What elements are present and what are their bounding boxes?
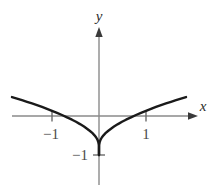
function-plot: y x −1 1 −1 — [0, 0, 208, 185]
tick-label-x-negative-one: −1 — [43, 126, 59, 142]
y-axis-label: y — [94, 8, 103, 24]
x-axis-label: x — [199, 98, 207, 114]
y-axis-arrow-icon — [95, 27, 102, 37]
graph-figure: y x −1 1 −1 — [0, 0, 208, 185]
tick-label-y-negative-one: −1 — [72, 147, 88, 163]
x-axis-arrow-icon — [188, 112, 198, 120]
tick-label-x-positive-one: 1 — [142, 126, 150, 142]
